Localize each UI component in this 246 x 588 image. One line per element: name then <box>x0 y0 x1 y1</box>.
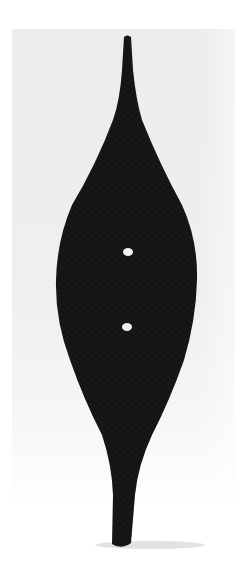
object-texture <box>56 36 197 547</box>
floor-shadow <box>95 541 205 549</box>
wooden-object <box>0 0 246 588</box>
hole-lower <box>122 323 132 331</box>
hole-upper <box>123 248 133 256</box>
